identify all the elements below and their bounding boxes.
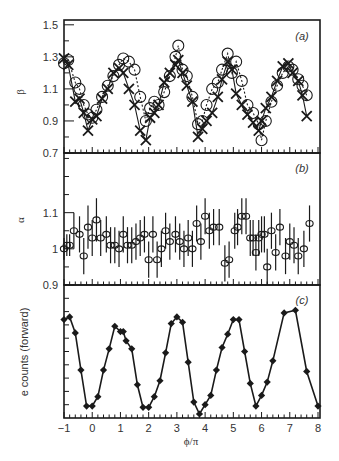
y-tick-label: 1.1: [43, 207, 58, 219]
panel-c-tag: (c): [296, 294, 309, 306]
data-point: [156, 377, 163, 384]
y-tick-label: 1.3: [43, 51, 58, 63]
data-point: [77, 367, 84, 374]
data-point: [224, 331, 231, 338]
x-tick-label: 6: [258, 422, 264, 434]
data-point: [162, 349, 169, 356]
data-point: [145, 404, 152, 411]
y-tick-label: 1.1: [43, 83, 58, 95]
data-point: [281, 309, 288, 316]
data-point: [237, 100, 247, 110]
data-point: [72, 329, 79, 336]
data-point: [151, 393, 158, 400]
data-point: [213, 92, 223, 102]
x-tick-label: −1: [58, 422, 71, 434]
data-point: [235, 316, 242, 323]
data-point: [100, 367, 107, 374]
data-point: [173, 55, 183, 65]
data-point: [264, 378, 271, 385]
y-axis-label-beta: β: [14, 89, 26, 95]
data-point: [94, 393, 101, 400]
x-tick-label: 7: [287, 422, 293, 434]
data-point: [130, 100, 140, 110]
data-point: [252, 402, 259, 409]
figure: 0.70.91.11.31.5 0.911.1 −1012345678 (a) …: [0, 0, 339, 461]
data-point: [106, 345, 113, 352]
data-point: [182, 81, 192, 91]
data-point: [292, 307, 299, 314]
data-point: [190, 398, 197, 405]
data-point: [258, 392, 265, 399]
x-tick-label: 4: [202, 422, 208, 434]
y-tick-label: 0.9: [43, 279, 58, 291]
y-tick-label: 1.5: [43, 19, 58, 31]
y-tick-label: 1: [52, 243, 58, 255]
data-point: [89, 402, 96, 409]
data-point: [254, 126, 264, 136]
panel-b-tag: (b): [295, 162, 309, 174]
data-point: [218, 344, 225, 351]
data-point: [135, 126, 145, 136]
data-point: [202, 401, 209, 408]
panel-b: 0.911.1: [43, 153, 320, 291]
x-tick-label: 5: [230, 422, 236, 434]
data-point: [302, 111, 312, 121]
data-point: [185, 359, 192, 366]
data-point: [134, 381, 141, 388]
panel-c: −1012345678: [58, 285, 322, 434]
data-point: [231, 89, 241, 99]
y-tick-label: 0.7: [43, 147, 58, 159]
x-tick-label: 1: [117, 422, 123, 434]
data-point: [118, 68, 128, 78]
data-point: [207, 83, 218, 94]
data-point: [207, 392, 214, 399]
plot-frame: [64, 285, 320, 418]
data-point: [141, 135, 151, 145]
data-point: [303, 368, 310, 375]
x-tick-label: 3: [174, 422, 180, 434]
data-point: [269, 357, 276, 364]
data-point: [159, 77, 169, 87]
data-point: [207, 108, 217, 118]
data-point: [196, 410, 203, 417]
x-tick-label: 8: [315, 422, 321, 434]
panel-a-tag: (a): [295, 30, 309, 42]
y-tick-label: 0.9: [43, 115, 58, 127]
data-point: [83, 126, 93, 136]
panel-a: 0.70.91.11.31.5: [43, 19, 320, 159]
data-point: [241, 348, 248, 355]
data-point: [247, 380, 254, 387]
data-point: [124, 84, 134, 94]
x-tick-label: 0: [89, 422, 95, 434]
series-line: [64, 46, 307, 141]
y-axis-label-alpha: α: [14, 217, 26, 223]
x-tick-label: 2: [146, 422, 152, 434]
y-axis-label-counts: e counts (forward): [18, 308, 30, 397]
x-axis-label: ϕ/π: [184, 435, 199, 447]
data-point: [97, 91, 108, 102]
data-point: [213, 367, 220, 374]
